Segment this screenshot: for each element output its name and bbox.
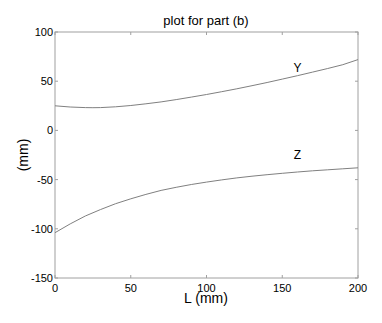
y-tick-label: -50 <box>37 174 53 186</box>
y-tick-label: -100 <box>31 223 53 235</box>
y-axis-label: (mm) <box>15 139 31 172</box>
x-tick-label: 200 <box>349 282 367 294</box>
plot-area <box>55 32 358 278</box>
line-chart: plot for part (b) 050100150200-150-100-5… <box>0 0 382 323</box>
x-axis-label: L (mm) <box>184 290 228 306</box>
series-label-y: Y <box>293 61 301 75</box>
y-tick-label: 100 <box>35 26 53 38</box>
x-tick-label: 150 <box>273 282 291 294</box>
y-tick-label: 0 <box>47 124 53 136</box>
y-tick-label: -150 <box>31 272 53 284</box>
series-label-z: Z <box>294 148 301 162</box>
chart-title: plot for part (b) <box>163 13 248 28</box>
y-tick-label: 50 <box>41 75 53 87</box>
x-tick-label: 50 <box>125 282 137 294</box>
